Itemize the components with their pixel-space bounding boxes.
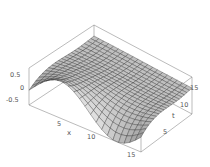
x-tick-label: 10 [87,133,95,141]
z-tick-label: -0.5 [6,96,19,104]
z-tick-label: 0.5 [10,71,20,79]
t-tick-label: 15 [190,84,198,92]
t-tick-label: 10 [180,101,188,109]
x-tick-label: 5 [57,120,61,128]
x-tick-label: 15 [127,151,135,159]
t-tick-label: 5 [163,128,167,136]
z-tick-label: 0 [20,84,24,92]
t-axis-label: t [172,112,175,120]
x-axis-label: x [67,129,71,137]
surface-plot: 0.5 0 -0.5 5 x 10 15 5 t 10 15 [0,0,210,167]
plot-canvas: 0.5 0 -0.5 5 x 10 15 5 t 10 15 [0,0,210,167]
